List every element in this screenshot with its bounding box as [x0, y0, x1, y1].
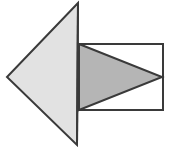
shared-vertical-edge [77, 3, 78, 145]
geometric-figure [0, 0, 172, 154]
figure-canvas [0, 0, 172, 154]
